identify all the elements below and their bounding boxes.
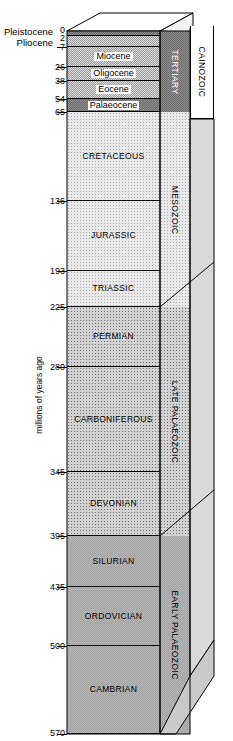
tick-mark-26 xyxy=(57,67,67,68)
chrono-stratigraphic-chart: Pleistocene Pliocene 0 2 7 26 38 54 65 1… xyxy=(0,0,233,741)
era-label-late-palaeozoic: LATE PALAEOZOIC xyxy=(170,380,180,463)
band-devonian: DEVONIAN xyxy=(67,472,160,536)
tick-mark-395 xyxy=(57,536,67,537)
tick-mark-280 xyxy=(57,367,67,368)
band-label-carboniferous: CARBONIFEROUS xyxy=(74,415,153,424)
era-mesozoic: MESOZOIC xyxy=(160,112,190,307)
era-label-tertiary: TERTIARY xyxy=(170,49,180,94)
band-miocene: Miocene xyxy=(67,47,160,67)
era-early-palaeozoic: EARLY PALAEOZOIC xyxy=(160,536,190,734)
tick-mark-570 xyxy=(57,734,67,735)
band-label-devonian: DEVONIAN xyxy=(90,499,137,508)
era-tertiary: TERTIARY xyxy=(160,31,190,112)
band-label-silurian: SILURIAN xyxy=(92,557,134,566)
tick-mark-7 xyxy=(57,47,67,48)
tick-mark-65 xyxy=(57,112,67,113)
band-cretaceous: CRETACEOUS xyxy=(67,112,160,201)
era-late-palaeozoic: LATE PALAEOZOIC xyxy=(160,307,190,536)
tick-mark-225 xyxy=(57,307,67,308)
tick-mark-500 xyxy=(57,646,67,647)
band-label-ordovician: ORDOVICIAN xyxy=(85,612,142,621)
band-pliocene xyxy=(67,36,160,47)
band-oligocene: Oligocene xyxy=(67,67,160,81)
band-label-palaeocene: Palaeocene xyxy=(88,101,140,110)
band-silurian: SILURIAN xyxy=(67,536,160,587)
axis-epoch-pleistocene: Pleistocene xyxy=(4,27,53,37)
top-cap-face xyxy=(67,13,193,31)
band-permian: PERMIAN xyxy=(67,307,160,367)
band-ordovician: ORDOVICIAN xyxy=(67,587,160,646)
band-label-eocene: Eocene xyxy=(96,85,131,94)
era-label-mesozoic: MESOZOIC xyxy=(170,185,180,234)
band-label-cretaceous: CRETACEOUS xyxy=(83,152,145,161)
tick-mark-193 xyxy=(57,271,67,272)
cap-right-face xyxy=(160,13,193,33)
axis-title-millions-of-years: millions of years ago xyxy=(34,350,44,440)
band-label-permian: PERMIAN xyxy=(93,332,134,341)
right-side-face xyxy=(190,119,214,676)
band-label-jurassic: JURASSIC xyxy=(91,231,136,240)
tick-mark-38 xyxy=(57,81,67,82)
band-label-oligocene: Oligocene xyxy=(91,69,136,78)
band-eocene: Eocene xyxy=(67,81,160,99)
axis-epoch-pliocene: Pliocene xyxy=(17,38,53,48)
band-cambrian: CAMBRIAN xyxy=(67,646,160,734)
tick-mark-345 xyxy=(57,472,67,473)
era-cainozoic: CAINOZOIC xyxy=(190,26,214,119)
band-triassic: TRIASSIC xyxy=(67,271,160,307)
tick-mark-136 xyxy=(57,201,67,202)
band-palaeocene: Palaeocene xyxy=(67,99,160,112)
tick-mark-435 xyxy=(57,587,67,588)
era-label-early-palaeozoic: EARLY PALAEOZOIC xyxy=(170,590,180,680)
band-label-miocene: Miocene xyxy=(94,52,132,61)
tick-mark-54 xyxy=(57,99,67,100)
band-label-triassic: TRIASSIC xyxy=(92,284,134,293)
age-axis: Pleistocene Pliocene 0 2 7 26 38 54 65 1… xyxy=(0,0,67,741)
band-carboniferous: CARBONIFEROUS xyxy=(67,367,160,472)
band-jurassic: JURASSIC xyxy=(67,201,160,271)
era-label-cainozoic: CAINOZOIC xyxy=(197,47,207,98)
band-label-cambrian: CAMBRIAN xyxy=(90,685,138,694)
